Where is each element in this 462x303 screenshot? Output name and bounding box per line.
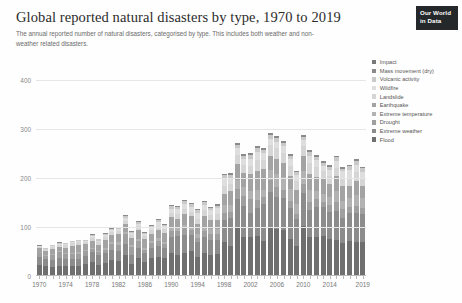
bar[interactable] (281, 141, 286, 276)
x-axis-tick (363, 276, 364, 279)
bar[interactable] (37, 245, 42, 276)
bar-segment (347, 186, 352, 198)
bar-segment (274, 174, 279, 187)
bar[interactable] (90, 234, 95, 276)
bar[interactable] (142, 232, 147, 276)
bar-segment (248, 191, 253, 199)
bar[interactable] (116, 227, 121, 276)
bar-segment (255, 190, 260, 201)
bar[interactable] (83, 240, 88, 276)
legend-item[interactable]: Earthquake (372, 101, 434, 110)
bar-segment (261, 204, 266, 241)
bar[interactable] (255, 146, 260, 276)
bar-segment (294, 246, 299, 276)
bar[interactable] (215, 204, 220, 276)
bar[interactable] (149, 225, 154, 276)
bar-segment (301, 146, 306, 156)
bar[interactable] (63, 243, 68, 276)
bar[interactable] (43, 248, 48, 276)
x-axis-tick (350, 276, 351, 279)
bar[interactable] (314, 155, 319, 276)
bar[interactable] (360, 167, 365, 276)
gridline (36, 178, 366, 179)
legend-item[interactable]: Extreme temperature (372, 110, 434, 119)
bar[interactable] (57, 242, 62, 276)
bar[interactable] (76, 240, 81, 276)
bar-segment (83, 256, 88, 264)
bar[interactable] (354, 159, 359, 276)
legend-item[interactable]: Wildfire (372, 84, 434, 93)
bar[interactable] (235, 143, 240, 276)
bar[interactable] (334, 156, 339, 276)
legend-item[interactable]: Impact (372, 58, 434, 67)
legend-swatch-icon (372, 103, 376, 107)
bar[interactable] (347, 165, 352, 276)
bar-segment (123, 244, 128, 255)
legend-item-label: Extreme temperature (380, 111, 433, 117)
bar[interactable] (162, 224, 167, 276)
bar-segment (175, 236, 180, 255)
bar[interactable] (109, 228, 114, 276)
legend-item-label: Mass movement (dry) (380, 68, 434, 74)
x-axis-tick (264, 276, 265, 279)
our-world-in-data-logo[interactable]: Our World in Data (416, 6, 458, 30)
bar[interactable] (294, 171, 299, 276)
bar[interactable] (268, 133, 273, 276)
bar[interactable] (175, 206, 180, 276)
bar[interactable] (228, 173, 233, 276)
bar[interactable] (340, 167, 345, 276)
bar-segment (142, 239, 147, 247)
y-axis-tick-label: 200 (20, 174, 31, 181)
bar[interactable] (307, 150, 312, 276)
bar-segment (195, 257, 200, 276)
bar[interactable] (288, 154, 293, 276)
bar-segment (182, 228, 187, 235)
legend-item[interactable]: Drought (372, 118, 434, 127)
legend-swatch-icon (372, 86, 376, 90)
bar[interactable] (189, 203, 194, 276)
bar[interactable] (70, 241, 75, 276)
legend-item[interactable]: Extreme weather (372, 127, 434, 136)
bar[interactable] (202, 201, 207, 276)
bar-segment (202, 253, 207, 276)
bar[interactable] (327, 165, 332, 276)
legend-item[interactable]: Flood (372, 135, 434, 144)
bar[interactable] (208, 207, 213, 276)
bar-segment (281, 190, 286, 198)
bar[interactable] (248, 153, 253, 276)
x-axis-tick-label: 2019 (356, 281, 370, 288)
bar[interactable] (222, 174, 227, 276)
bar[interactable] (261, 148, 266, 276)
legend-item[interactable]: Landslide (372, 92, 434, 101)
legend-item-label: Flood (380, 137, 394, 143)
legend-item-label: Impact (380, 59, 397, 65)
bar-segment (228, 246, 233, 276)
bar-segment (169, 253, 174, 276)
bar-segment (274, 229, 279, 276)
bar[interactable] (123, 215, 128, 276)
bar-segment (208, 240, 213, 255)
bar-segment (268, 145, 273, 155)
bar[interactable] (241, 154, 246, 276)
bar[interactable] (182, 200, 187, 276)
bar-segment (327, 184, 332, 197)
bar[interactable] (103, 233, 108, 276)
bar-segment (334, 191, 339, 202)
bar[interactable] (136, 221, 141, 276)
bar-segment (274, 197, 279, 229)
legend-item[interactable]: Volcanic activity (372, 75, 434, 84)
bar[interactable] (195, 209, 200, 276)
y-axis-tick-label: 100 (20, 223, 31, 230)
bar[interactable] (301, 135, 306, 276)
bar[interactable] (50, 245, 55, 276)
y-axis-tick-label: 300 (20, 125, 31, 132)
bar[interactable] (169, 205, 174, 276)
bar[interactable] (274, 136, 279, 276)
legend-item-label: Volcanic activity (380, 76, 419, 82)
bar[interactable] (96, 239, 101, 276)
bar[interactable] (129, 231, 134, 276)
chart-legend: ImpactMass movement (dry)Volcanic activi… (372, 58, 434, 144)
bar-segment (268, 139, 273, 146)
legend-item[interactable]: Mass movement (dry) (372, 67, 434, 76)
bar-segment (70, 259, 75, 266)
